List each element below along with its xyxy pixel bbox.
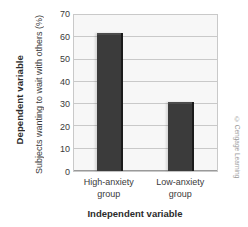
x-axis-tick-label-line: Low-anxiety (140, 176, 220, 188)
bar (168, 102, 194, 171)
y-axis-tick-label: 40 (60, 77, 70, 86)
x-axis-tick-label: High-anxietygroup (69, 176, 149, 200)
bar-chart-figure: Dependent variable Subjects wanting to w… (0, 0, 248, 227)
dependent-variable-axis-title: Dependent variable (10, 0, 28, 200)
y-axis-tick-label: 50 (60, 55, 70, 64)
y-axis-tick-label: 30 (60, 100, 70, 109)
x-axis-baseline (74, 170, 217, 171)
y-axis-tick-label: 60 (60, 32, 70, 41)
x-axis-tick-labels: High-anxietygroupLow-anxietygroup (73, 176, 218, 208)
x-axis-label: Independent variable (48, 208, 222, 219)
x-axis-tick-label: Low-anxietygroup (140, 176, 220, 200)
dependent-variable-axis-title-text: Dependent variable (14, 55, 25, 144)
copyright-credit: © Cengage Learning (230, 104, 244, 190)
gridline (74, 125, 217, 126)
gridline (74, 148, 217, 149)
x-axis-tick-label-line: High-anxiety (69, 176, 149, 188)
gridline (74, 103, 217, 104)
plot-area (73, 14, 218, 172)
copyright-credit-text: © Cengage Learning (234, 116, 241, 178)
bar-top-highlight (97, 33, 121, 35)
y-axis-tick-label: 10 (60, 145, 70, 154)
gridline (74, 81, 217, 82)
x-axis-tick-label-line: group (140, 188, 220, 200)
y-axis-tick-labels: 706050403020100 (48, 14, 70, 172)
bar-top-highlight (168, 102, 192, 104)
bar (97, 33, 123, 171)
y-axis-tick-label: 70 (60, 10, 70, 19)
y-axis-tick-label: 20 (60, 122, 70, 131)
y-axis-label-text: Subjects wanting to wait with others (%) (34, 15, 44, 174)
y-axis-label: Subjects wanting to wait with others (%) (30, 0, 48, 190)
gridline (74, 36, 217, 37)
gridline (74, 59, 217, 60)
x-axis-tick-label-line: group (69, 188, 149, 200)
